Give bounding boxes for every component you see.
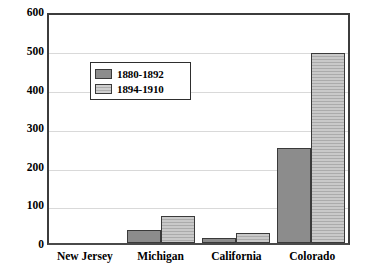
y-tick-label: 0: [0, 239, 44, 251]
y-tick-label: 300: [0, 123, 44, 135]
plot-area: [47, 13, 350, 245]
x-tick-label: New Jersey: [47, 250, 123, 262]
legend: 1880-1892 1894-1910: [90, 62, 191, 100]
bar: [236, 233, 270, 243]
bar-series-container: [49, 15, 348, 243]
legend-item-label: 1880-1892: [117, 68, 164, 80]
bar: [277, 148, 311, 243]
bar-group: [199, 15, 274, 243]
bar: [202, 238, 236, 243]
y-tick-label: 100: [0, 200, 44, 212]
bar-group: [124, 15, 199, 243]
y-axis: 600 500 400 300 200 100 0: [0, 0, 44, 277]
legend-item: 1894-1910: [95, 81, 186, 96]
x-axis: New JerseyMichiganCaliforniaColorado: [47, 250, 350, 262]
x-tick-label: Michigan: [123, 250, 199, 262]
x-tick-label: Colorado: [274, 250, 350, 262]
y-tick-label: 400: [0, 85, 44, 97]
bar-group: [49, 15, 124, 243]
legend-swatch-icon: [95, 84, 112, 94]
bar: [127, 230, 161, 243]
bar-chart: 600 500 400 300 200 100 0 1880-1892 1894…: [0, 0, 370, 277]
legend-item-label: 1894-1910: [117, 83, 164, 95]
legend-item: 1880-1892: [95, 66, 186, 81]
y-tick-label: 500: [0, 46, 44, 58]
legend-swatch-icon: [95, 69, 112, 79]
y-tick-label: 200: [0, 162, 44, 174]
bar: [161, 216, 195, 243]
y-tick-label: 600: [0, 7, 44, 19]
bar-group: [273, 15, 348, 243]
x-tick-label: California: [199, 250, 275, 262]
bar: [311, 53, 345, 243]
